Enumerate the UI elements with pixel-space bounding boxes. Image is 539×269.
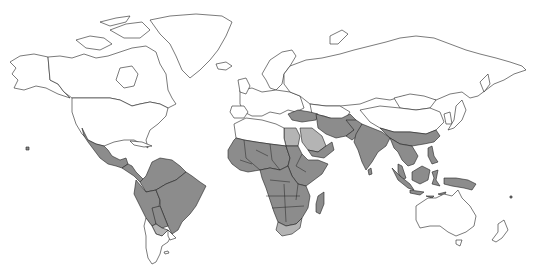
region-philippines (428, 146, 438, 164)
region-java (410, 190, 424, 195)
region-korea (444, 112, 452, 124)
region-madagascar (316, 192, 324, 214)
region-new-zealand (492, 220, 508, 242)
region-sulawesi (432, 170, 440, 186)
region-iceland (216, 62, 232, 70)
region-cuba (130, 141, 152, 147)
region-borneo (412, 166, 430, 184)
region-central-america (122, 164, 144, 182)
south-america (134, 158, 206, 264)
north-america (10, 14, 232, 148)
region-new-guinea (444, 178, 476, 190)
region-australia (416, 190, 476, 236)
world-map (0, 0, 539, 269)
region-arctic-islands (76, 36, 112, 50)
region-tasmania (456, 240, 462, 246)
region-iberia (230, 106, 248, 118)
region-saudi-arabia (300, 128, 326, 152)
region-egypt (284, 128, 300, 146)
region-usa (72, 98, 168, 148)
